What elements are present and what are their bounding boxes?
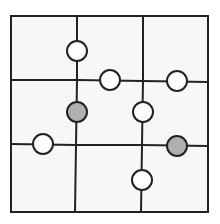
white-circle-marker: [33, 134, 53, 154]
grid-frame: [11, 16, 208, 212]
gray-circle-marker: [167, 136, 187, 156]
puzzle-grid: [0, 0, 220, 224]
grid-line: [75, 145, 76, 212]
white-circle-marker: [100, 70, 120, 90]
gray-circle-marker: [67, 102, 87, 122]
puzzle-board: [0, 0, 220, 224]
white-circle-marker: [67, 41, 87, 61]
white-circle-marker: [133, 102, 153, 122]
white-circle-marker: [167, 71, 187, 91]
white-circle-marker: [132, 170, 152, 190]
